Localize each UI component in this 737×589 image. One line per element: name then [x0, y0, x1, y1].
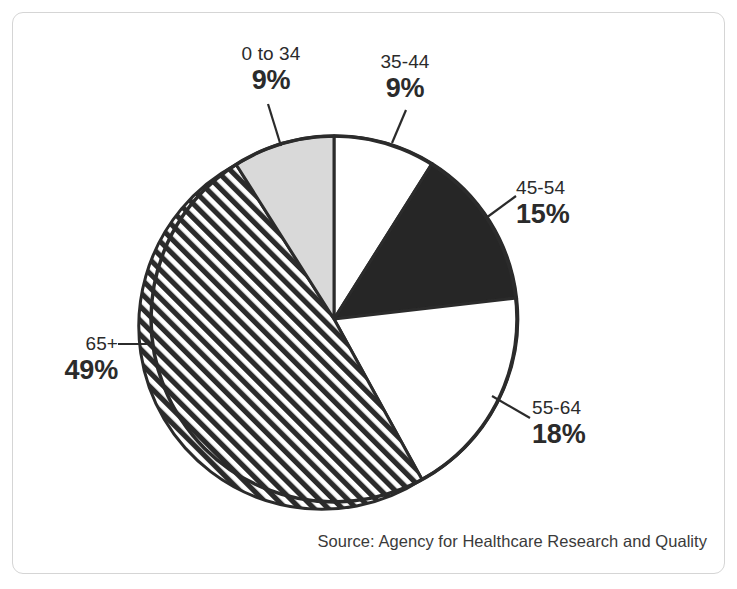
pie-label-45-54-category: 45-54	[516, 178, 666, 199]
pie-label-55-64: 55-64 18%	[532, 398, 682, 449]
pie-label-45-54: 45-54 15%	[516, 178, 666, 229]
pie-label-35-44: 35-44 9%	[330, 52, 480, 103]
pie-label-35-44-category: 35-44	[330, 52, 480, 73]
leader-line-45-54	[486, 196, 516, 218]
leader-line-55-64	[492, 396, 530, 418]
leader-line-0-to-34	[268, 104, 281, 146]
pie-label-55-64-category: 55-64	[532, 398, 682, 419]
pie-chart-area: 0 to 34 9% 35-44 9% 45-54 15% 55-64 18% …	[0, 0, 737, 589]
pie-label-55-64-value: 18%	[532, 420, 682, 449]
leader-line-35-44	[392, 110, 406, 143]
pie-label-65-plus-value: 49%	[0, 356, 118, 385]
source-note: Source: Agency for Healthcare Research a…	[317, 532, 707, 551]
pie-label-65-plus-category: 65+	[0, 334, 118, 355]
pie-chart-figure: 0 to 34 9% 35-44 9% 45-54 15% 55-64 18% …	[0, 0, 737, 589]
pie-label-35-44-value: 9%	[330, 74, 480, 103]
pie-label-65-plus: 65+ 49%	[0, 334, 118, 385]
pie-label-45-54-value: 15%	[516, 200, 666, 229]
